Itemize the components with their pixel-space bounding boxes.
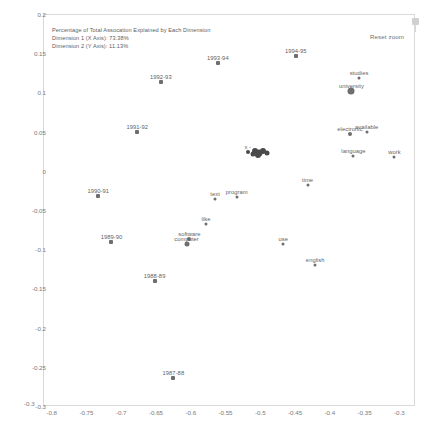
y-axis-tick-label: 0.2 (14, 11, 46, 18)
dimension-annotation: Percentage of Total Assocation Explained… (52, 26, 210, 51)
data-point-label: language (341, 148, 365, 154)
data-point-label: 1990-91 (87, 188, 109, 194)
data-point-label: time (302, 177, 313, 183)
data-point-marker (235, 196, 238, 199)
data-point-marker (184, 241, 189, 246)
data-point-marker (365, 130, 368, 133)
data-point-label: 1989-90 (101, 234, 123, 240)
annotation-title: Percentage of Total Assocation Explained… (52, 26, 210, 34)
corner-marker-icon (412, 18, 419, 25)
data-point-label: text (210, 191, 220, 197)
data-point-label: 1988-89 (144, 273, 166, 279)
data-point-label: like (202, 216, 211, 222)
data-point-marker (96, 194, 100, 198)
y-axis-tick-label: 0.1 (14, 89, 46, 96)
data-point-marker (216, 61, 220, 65)
reset-zoom-button[interactable]: Reset zoom (370, 33, 404, 40)
data-point-marker (306, 183, 309, 186)
data-point-marker (171, 376, 175, 380)
data-point-marker (314, 263, 317, 266)
data-point-label: studies (350, 70, 369, 76)
y-axis-tick-label: -0.05 (14, 207, 46, 214)
data-point-label: 1994-95 (285, 48, 307, 54)
data-point-marker (135, 130, 139, 134)
y-axis-tick-label: -0.1 (14, 246, 46, 253)
annotation-dimension-2: Dimension 2 (Y Axis): 11.13% (52, 42, 210, 50)
x-axis-origin-tick: -0.3 (24, 400, 35, 407)
annotation-dimension-1: Dimension 1 (X Axis): 73.38% (52, 34, 210, 42)
data-point-label: 1991-92 (126, 124, 148, 130)
data-point-label: use (278, 236, 288, 242)
data-point-marker (352, 154, 355, 157)
y-axis-tick-label: -0.15 (14, 285, 46, 292)
data-point-marker (159, 80, 163, 84)
data-point-label: university (339, 83, 364, 89)
data-point-marker (205, 223, 208, 226)
data-point-label: work (388, 149, 400, 155)
data-point-marker (393, 155, 396, 158)
data-point-label: electronic (337, 126, 362, 132)
x-axis-tick-label: -0.3 (379, 409, 419, 416)
data-point-label: computer (174, 236, 199, 242)
data-point-marker (265, 150, 270, 155)
data-point-label: 1992-93 (150, 74, 172, 80)
data-point-label: x - (244, 144, 251, 150)
data-point-marker (358, 77, 361, 80)
data-point-marker (255, 152, 261, 158)
data-point-marker (214, 198, 217, 201)
data-point-label: 1993-94 (207, 55, 229, 61)
y-axis-tick-label: 0 (14, 167, 46, 174)
data-point-marker (348, 132, 352, 136)
data-point-marker (250, 151, 255, 156)
data-point-label: program (226, 189, 248, 195)
data-point-marker (282, 242, 285, 245)
y-axis-tick-label: 0.15 (14, 50, 46, 57)
y-axis-tick-label: -0.2 (14, 324, 46, 331)
data-point-marker (294, 54, 298, 58)
data-point-label: english (306, 257, 325, 263)
data-point-marker (109, 240, 113, 244)
corner-marker-stem (415, 25, 416, 32)
data-point-label: 1987-88 (163, 370, 185, 376)
scatter-plot-root: Percentage of Total Assocation Explained… (0, 0, 426, 438)
data-point-marker (153, 279, 157, 283)
y-axis-tick-label: -0.25 (14, 363, 46, 370)
y-axis-tick-label: 0.05 (14, 128, 46, 135)
